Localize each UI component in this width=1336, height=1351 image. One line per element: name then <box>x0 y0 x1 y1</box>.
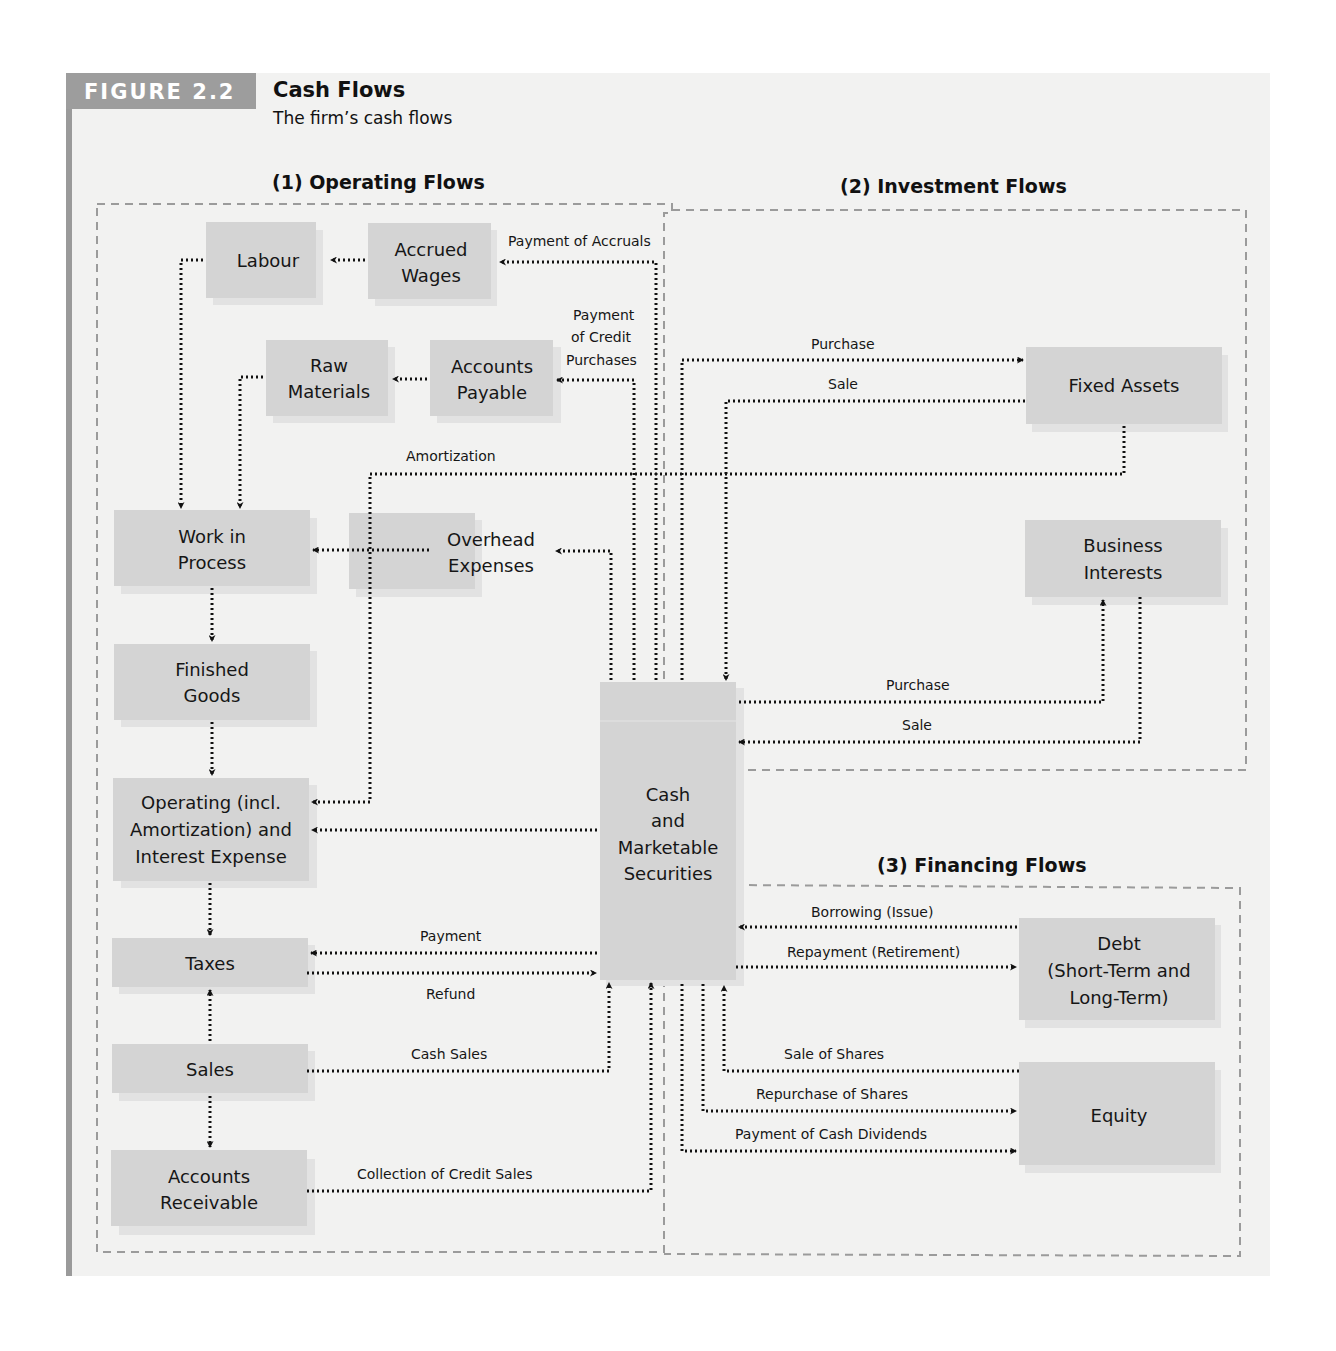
node-debt[interactable]: Debt (Short-Term and Long-Term) <box>1019 918 1221 1028</box>
section-title-operating: (1) Operating Flows <box>272 171 485 193</box>
svg-text:Payable: Payable <box>457 382 527 403</box>
label-repurchase-of-shares: Repurchase of Shares <box>756 1086 908 1102</box>
svg-text:Sales: Sales <box>186 1059 234 1080</box>
node-sales[interactable]: Sales <box>112 1044 315 1101</box>
svg-text:Materials: Materials <box>288 381 371 402</box>
svg-text:Finished: Finished <box>175 659 249 680</box>
figure-left-bar <box>66 73 72 1276</box>
svg-text:Accounts: Accounts <box>451 356 533 377</box>
label-fixed-asset-purchase: Purchase <box>811 336 875 352</box>
svg-text:Operating (incl.: Operating (incl. <box>141 792 281 813</box>
label-payment-cash-dividends: Payment of Cash Dividends <box>735 1126 927 1142</box>
node-raw-materials[interactable]: Raw Materials <box>266 340 395 423</box>
figure-title: Cash Flows <box>273 78 405 102</box>
figure-subtitle: The firm’s cash flows <box>272 108 452 128</box>
svg-text:Overhead: Overhead <box>447 529 535 550</box>
label-payment-credit-purchases-1: Payment <box>573 307 635 323</box>
svg-text:Expenses: Expenses <box>448 555 534 576</box>
label-business-interest-purchase: Purchase <box>886 677 950 693</box>
svg-text:Accrued: Accrued <box>394 239 467 260</box>
svg-text:Interest Expense: Interest Expense <box>135 846 286 867</box>
label-payment-credit-purchases-2: of Credit <box>571 329 632 345</box>
svg-text:Goods: Goods <box>184 685 241 706</box>
label-sale-of-shares: Sale of Shares <box>784 1046 884 1062</box>
node-accrued-wages[interactable]: Accrued Wages <box>368 223 497 306</box>
node-work-in-process[interactable]: Work in Process <box>114 510 317 594</box>
svg-text:Debt: Debt <box>1097 933 1140 954</box>
section-title-financing: (3) Financing Flows <box>877 854 1087 876</box>
node-fixed-assets[interactable]: Fixed Assets <box>1026 347 1228 432</box>
svg-text:(Short-Term and: (Short-Term and <box>1047 960 1190 981</box>
node-accounts-receivable[interactable]: Accounts Receivable <box>111 1150 315 1235</box>
svg-text:Raw: Raw <box>310 355 348 376</box>
figure-tag: FIGURE 2.2 <box>84 80 235 104</box>
node-finished-goods[interactable]: Finished Goods <box>114 644 317 727</box>
svg-text:Equity: Equity <box>1091 1105 1148 1126</box>
section-title-investment: (2) Investment Flows <box>840 175 1067 197</box>
svg-text:Long-Term): Long-Term) <box>1069 987 1168 1008</box>
svg-text:and: and <box>651 810 685 831</box>
label-tax-payment: Payment <box>420 928 482 944</box>
svg-text:Receivable: Receivable <box>160 1192 258 1213</box>
svg-text:Taxes: Taxes <box>184 953 235 974</box>
svg-text:Securities: Securities <box>624 863 713 884</box>
svg-text:Amortization) and: Amortization) and <box>130 819 292 840</box>
svg-text:Marketable: Marketable <box>618 837 718 858</box>
svg-text:Accounts: Accounts <box>168 1166 250 1187</box>
node-accounts-payable[interactable]: Accounts Payable <box>430 340 561 423</box>
node-taxes[interactable]: Taxes <box>112 938 315 994</box>
label-payment-of-accruals: Payment of Accruals <box>508 233 651 249</box>
label-fixed-asset-sale: Sale <box>828 376 858 392</box>
label-amortization: Amortization <box>406 448 496 464</box>
svg-text:Fixed Assets: Fixed Assets <box>1069 375 1180 396</box>
node-labour[interactable]: Labour <box>206 222 323 305</box>
svg-text:Work in: Work in <box>178 526 246 547</box>
svg-text:Interests: Interests <box>1084 562 1163 583</box>
svg-text:Labour: Labour <box>237 250 300 271</box>
svg-text:Business: Business <box>1083 535 1162 556</box>
svg-text:Wages: Wages <box>401 265 461 286</box>
svg-text:Cash: Cash <box>646 784 690 805</box>
svg-text:Process: Process <box>178 552 246 573</box>
label-payment-credit-purchases-3: Purchases <box>566 352 637 368</box>
node-cash-and-marketable-securities[interactable]: Cash and Marketable Securities <box>600 682 744 986</box>
label-cash-sales: Cash Sales <box>411 1046 487 1062</box>
node-equity[interactable]: Equity <box>1019 1062 1221 1173</box>
label-borrowing: Borrowing (Issue) <box>811 904 933 920</box>
label-collection-credit-sales: Collection of Credit Sales <box>357 1166 532 1182</box>
node-operating-expense[interactable]: Operating (incl. Amortization) and Inter… <box>113 778 317 888</box>
label-business-interest-sale: Sale <box>902 717 932 733</box>
label-repayment: Repayment (Retirement) <box>787 944 960 960</box>
label-tax-refund: Refund <box>426 986 475 1002</box>
node-business-interests[interactable]: Business Interests <box>1025 520 1228 605</box>
